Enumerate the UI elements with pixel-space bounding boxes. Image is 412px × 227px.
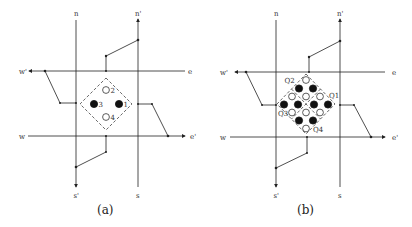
label-e-prime: e' xyxy=(392,134,398,142)
turn-path-west xyxy=(45,71,76,103)
label-n: n xyxy=(274,10,279,18)
cell-1-filled xyxy=(115,100,122,107)
label-n-prime: n' xyxy=(135,10,142,18)
label-e: e xyxy=(188,68,192,76)
cell-label-3: 3 xyxy=(99,101,103,109)
intersection-diagrams: 1 2 3 4 n n' w' e w e' s' s (a) xyxy=(0,0,412,227)
caption-a: (a) xyxy=(97,203,114,217)
turn-path-west xyxy=(246,72,276,105)
cell-2-open xyxy=(103,87,110,94)
label-e: e xyxy=(392,69,396,77)
quadrant-label-q3: Q3 xyxy=(278,110,288,118)
label-s-prime: s' xyxy=(274,192,280,200)
quadrant-label-q2: Q2 xyxy=(285,77,295,85)
label-s: s xyxy=(338,192,342,200)
cell-3-filled xyxy=(90,100,97,107)
turn-path-north xyxy=(106,40,138,71)
label-w: w xyxy=(19,133,25,141)
label-n: n xyxy=(74,10,79,18)
turn-path-east xyxy=(138,104,168,136)
turn-path-north xyxy=(309,41,340,72)
label-s-prime: s' xyxy=(74,192,80,200)
panel-a: 1 2 3 4 n n' w' e w e' s' s (a) xyxy=(19,10,196,217)
turn-path-south xyxy=(76,136,106,167)
label-e-prime: e' xyxy=(190,133,196,141)
turn-path-south xyxy=(276,137,307,168)
caption-b: (b) xyxy=(297,203,314,217)
quadrant-label-q1: Q1 xyxy=(329,92,339,100)
turn-path-east xyxy=(340,105,371,137)
label-w-prime: w' xyxy=(19,68,27,76)
label-w: w xyxy=(220,134,226,142)
panel-b: Q1 Q2 Q3 Q4 n n' w' e w e' s' s (b) xyxy=(220,10,398,217)
cell-label-1: 1 xyxy=(124,101,128,109)
quadrant-label-q4: Q4 xyxy=(313,126,324,134)
label-n-prime: n' xyxy=(337,10,344,18)
cell-label-4: 4 xyxy=(111,114,116,122)
label-w-prime: w' xyxy=(220,69,228,77)
label-s: s xyxy=(136,192,140,200)
cell-4-open xyxy=(103,114,110,121)
cell-label-2: 2 xyxy=(111,87,115,95)
